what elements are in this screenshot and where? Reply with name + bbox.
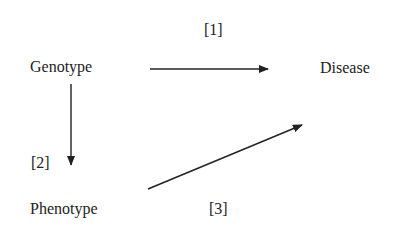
node-disease: Disease: [320, 60, 370, 76]
node-genotype: Genotype: [30, 59, 92, 75]
arrow-phenotype-to-disease: [148, 125, 302, 189]
node-phenotype: Phenotype: [30, 201, 98, 217]
edge-label-2: [2]: [31, 155, 50, 171]
edge-label-3: [3]: [209, 201, 228, 217]
edge-label-1: [1]: [204, 22, 223, 38]
